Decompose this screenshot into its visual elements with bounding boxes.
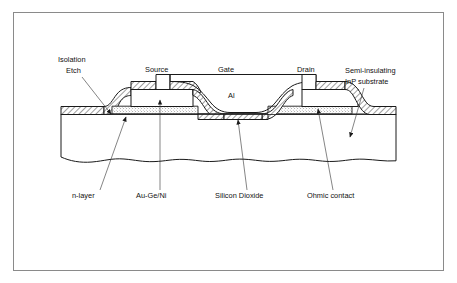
source-oxide-cap-left — [131, 82, 156, 90]
device-cross-section-diagram: Isolation Etch Source Gate Al Drain Semi… — [0, 0, 457, 283]
source-metal-stem — [156, 75, 170, 90]
label-source: Source — [145, 65, 168, 74]
label-isolation-etch-line1: Isolation — [58, 55, 86, 64]
drain-ohmic-contact — [302, 90, 358, 107]
label-ohmic-contact: Ohmic contact — [307, 191, 354, 200]
field-oxide-left — [61, 107, 104, 115]
label-drain: Drain — [297, 65, 315, 74]
label-semi-insulating-line1: Semi-insulating — [345, 66, 396, 75]
label-gate: Gate — [218, 65, 234, 74]
source-ohmic-contact — [131, 90, 193, 107]
label-au-ge-ni: Au-Ge/Ni — [136, 191, 167, 200]
label-n-layer: n-layer — [72, 191, 95, 200]
label-al: Al — [228, 91, 235, 100]
label-silicon-dioxide: Silicon Dioxide — [215, 191, 263, 200]
inp-substrate-body — [61, 114, 396, 162]
label-isolation-etch-line2: Etch — [66, 66, 81, 75]
figure-root: Isolation Etch Source Gate Al Drain Semi… — [0, 0, 457, 283]
drain-metal-stem — [302, 75, 316, 90]
drain-oxide-cap — [316, 82, 345, 90]
label-semi-insulating-line2: InP substrate — [345, 77, 388, 86]
n-layer — [112, 106, 198, 114]
